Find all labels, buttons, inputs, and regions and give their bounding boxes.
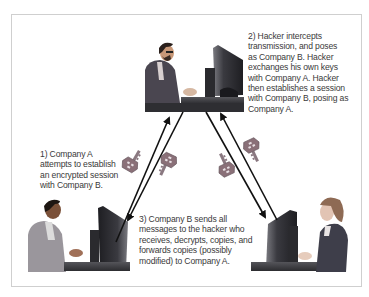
key-icon [154, 151, 179, 179]
step-2-caption: 2) Hacker intercepts transmission, and p… [248, 31, 366, 114]
key-icon [212, 151, 237, 179]
step-1-caption: 1) Company A attempts to establish an en… [40, 149, 135, 191]
arrows-right [206, 112, 277, 220]
step-3-caption: 3) Company B sends all messages to the h… [139, 214, 259, 266]
company-b-figure [251, 197, 348, 272]
arrow-hacker-to-company-b [206, 112, 265, 217]
company-a-figure [28, 200, 130, 272]
hacker-figure [145, 43, 244, 112]
